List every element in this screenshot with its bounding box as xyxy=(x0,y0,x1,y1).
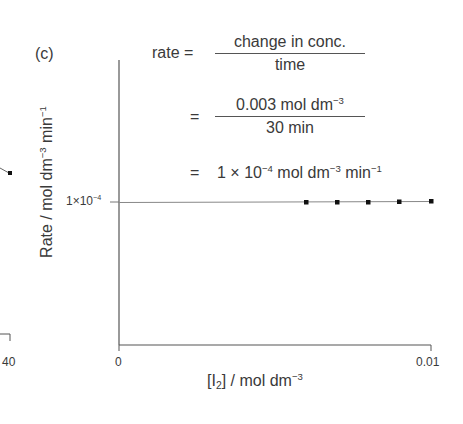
left-chart-tick-label: 40 xyxy=(2,355,15,369)
x-tick-label-0: 0 xyxy=(115,355,122,369)
x-axis-label: [I2] / mol dm−3 xyxy=(207,372,303,390)
data-point xyxy=(397,200,402,205)
data-point xyxy=(304,200,309,205)
left-chart-line xyxy=(0,168,9,173)
equation-equals-3: = xyxy=(190,164,199,182)
data-point xyxy=(366,200,371,205)
y-axis-label: Rate / mol dm−3 min−1 xyxy=(38,67,56,297)
equation-fraction-1: change in conc. time xyxy=(215,33,365,74)
data-point xyxy=(429,199,434,204)
y-tick-label: 1×10−4 xyxy=(66,194,101,208)
equation-result: 1 × 10−4 mol dm−3 min−1 xyxy=(217,164,382,182)
panel-label: (c) xyxy=(35,45,54,63)
x-tick-label-end: 0.01 xyxy=(416,355,439,369)
equation-fraction-2: 0.003 mol dm−3 30 min xyxy=(215,96,365,137)
fraction-2-denominator: 30 min xyxy=(215,117,365,137)
equation-equals-2: = xyxy=(190,108,199,126)
fraction-2-numerator: 0.003 mol dm−3 xyxy=(215,96,365,117)
equation-lhs: rate = xyxy=(152,44,193,62)
fraction-1-denominator: time xyxy=(215,54,365,74)
data-point xyxy=(335,200,340,205)
fraction-1-numerator: change in conc. xyxy=(215,33,365,54)
rate-line xyxy=(119,202,431,203)
left-chart-point xyxy=(8,171,12,175)
left-chart-axis-end xyxy=(0,334,10,341)
